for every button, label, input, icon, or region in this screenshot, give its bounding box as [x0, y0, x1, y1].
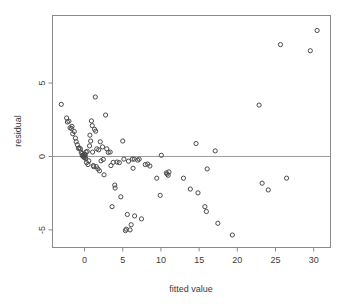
residual-plot-figure: 051015202530 50-5 fitted value residual [0, 0, 346, 308]
y-tick-label: -5 [38, 226, 48, 234]
y-tick-label: 5 [38, 81, 48, 86]
x-tick-label: 20 [232, 255, 242, 265]
x-tick-label: 15 [194, 255, 204, 265]
x-tick-label: 10 [156, 255, 166, 265]
x-tick-label: 5 [120, 255, 125, 265]
x-tick-label: 30 [309, 255, 319, 265]
scatter-plot-canvas: 051015202530 50-5 fitted value residual [0, 0, 346, 308]
y-axis-title: residual [13, 115, 23, 147]
x-axis-title: fitted value [169, 284, 213, 294]
plot-background [0, 0, 346, 308]
x-tick-label: 0 [82, 255, 87, 265]
y-tick-label: 0 [38, 154, 48, 159]
x-tick-label: 25 [271, 255, 281, 265]
